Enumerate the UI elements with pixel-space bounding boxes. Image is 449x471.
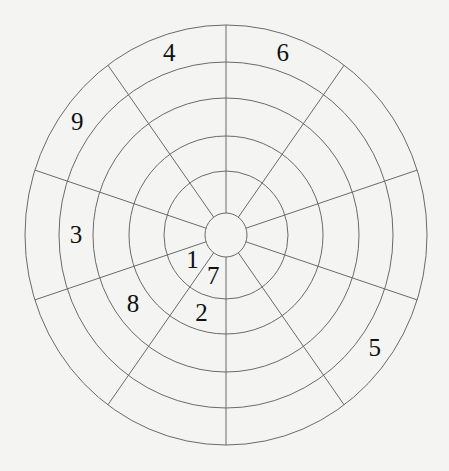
spoke-8: [246, 170, 417, 228]
puzzle-board: 469317825: [0, 0, 449, 471]
cell-number: 7: [207, 262, 220, 289]
cell-number: 5: [369, 334, 382, 361]
inner-circle: [205, 213, 247, 257]
cell-number: 9: [71, 108, 84, 135]
cell-number: 3: [70, 221, 83, 248]
cell-number: 8: [127, 290, 140, 317]
spoke-3: [35, 242, 206, 300]
cell-number: 2: [195, 299, 208, 326]
spoke-1: [108, 65, 214, 217]
spoke-4: [108, 253, 214, 405]
spoke-6: [238, 253, 344, 405]
spoke-group: [35, 25, 417, 445]
spoke-7: [246, 242, 417, 300]
spoke-9: [238, 65, 344, 217]
cell-number: 4: [163, 39, 176, 66]
cell-number: 1: [186, 246, 199, 273]
spoke-2: [35, 170, 206, 228]
cell-number: 6: [277, 39, 290, 66]
